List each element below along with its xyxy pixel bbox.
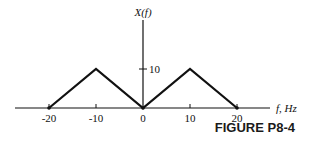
y-tick-label: 10 bbox=[149, 63, 161, 75]
x-tick-label: -10 bbox=[89, 112, 104, 124]
x-tick-label: -20 bbox=[42, 112, 57, 124]
figure-caption: FIGURE P8-4 bbox=[215, 120, 295, 135]
x-tick-label: 10 bbox=[185, 112, 197, 124]
x-axis-label: f, Hz bbox=[276, 102, 298, 114]
x-tick-label: 0 bbox=[140, 112, 146, 124]
y-axis-label: X(f) bbox=[133, 6, 151, 19]
